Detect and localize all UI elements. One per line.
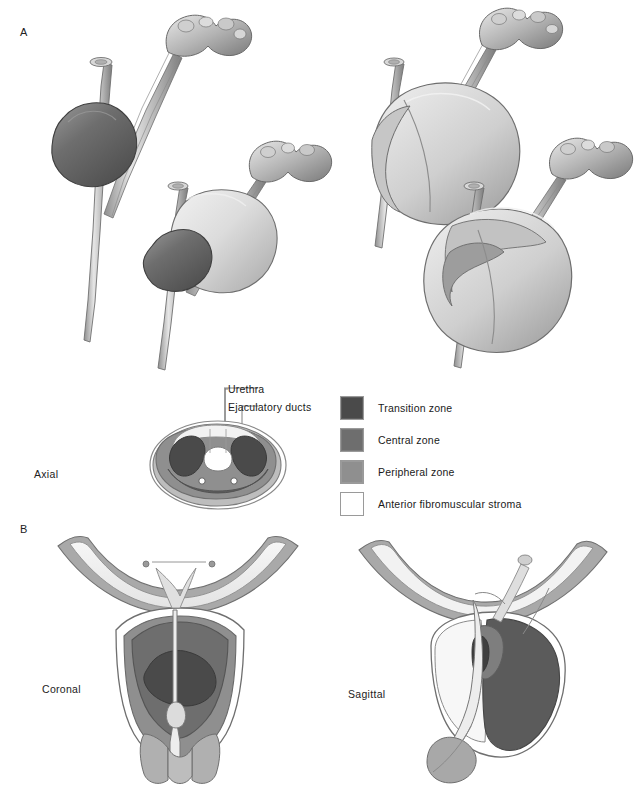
callout-urethra: Urethra [228, 383, 264, 395]
legend-label-peripheral-zone: Peripheral zone [378, 466, 455, 478]
legend-item-central-zone: Central zone [340, 424, 522, 456]
legend-item-transition-zone: Transition zone [340, 392, 522, 424]
prostate-3d-central-peripheral-group [143, 141, 331, 370]
prostate-zonal-anatomy-figure: A [0, 0, 637, 805]
view-label-axial: Axial [34, 468, 58, 480]
view-label-coronal: Coronal [42, 683, 81, 695]
coronal-section-svg [30, 528, 330, 805]
legend-item-anterior-fibromuscular-stroma: Anterior fibromuscular stroma [340, 488, 522, 520]
legend-label-central-zone: Central zone [378, 434, 440, 446]
zone-legend: Transition zone Central zone Peripheral … [340, 392, 522, 520]
legend-swatch-anterior-fibromuscular-stroma [340, 492, 364, 516]
legend-swatch-central-zone [340, 428, 364, 452]
legend-label-anterior-fibromuscular-stroma: Anterior fibromuscular stroma [378, 498, 522, 510]
sagittal-section-svg [335, 528, 635, 805]
legend-swatch-transition-zone [340, 396, 364, 420]
legend-item-peripheral-zone: Peripheral zone [340, 456, 522, 488]
panel-a-renderings [0, 0, 637, 400]
view-label-sagittal: Sagittal [348, 688, 385, 700]
legend-label-transition-zone: Transition zone [378, 402, 452, 414]
callout-ejaculatory-ducts: Ejaculatory ducts [228, 401, 311, 413]
legend-swatch-peripheral-zone [340, 460, 364, 484]
panel-label-b: B [20, 523, 28, 535]
